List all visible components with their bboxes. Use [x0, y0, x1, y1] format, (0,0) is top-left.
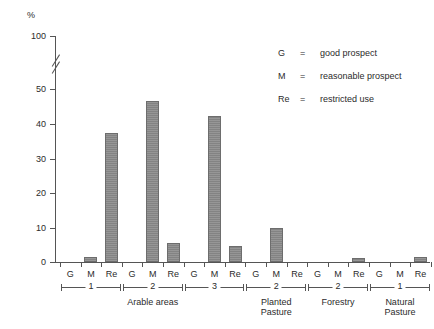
- group-number-label: 1: [85, 281, 96, 291]
- bracket-cap-left: [246, 284, 247, 291]
- bar: [414, 257, 427, 262]
- x-axis-tick: [287, 262, 288, 267]
- x-axis-category-label: G: [252, 269, 259, 280]
- x-axis-tick: [122, 262, 123, 267]
- legend-key: G: [278, 42, 300, 65]
- legend-row: M=reasonable prospect: [278, 65, 402, 88]
- x-axis-tick: [204, 262, 205, 267]
- section-label: Arable areas: [127, 297, 178, 307]
- legend-description: restricted use: [320, 88, 374, 111]
- bracket-cap-left: [185, 284, 186, 291]
- group-number-label: 2: [271, 281, 282, 291]
- bracket-cap-left: [123, 284, 124, 291]
- bracket-cap-right: [243, 284, 244, 291]
- section-label: Planted Pasture: [261, 297, 292, 317]
- bar: [229, 246, 242, 262]
- legend-key: M: [278, 65, 300, 88]
- x-axis-tick: [81, 262, 82, 267]
- x-axis-category-label: G: [376, 269, 383, 280]
- bracket-cap-right: [182, 284, 183, 291]
- x-axis-tick: [163, 262, 164, 267]
- group-bracket: 2: [246, 283, 306, 292]
- legend-description: good prospect: [320, 42, 377, 65]
- x-axis-category-label: M: [334, 269, 342, 280]
- legend-row: G=good prospect: [278, 42, 402, 65]
- bracket-cap-right: [367, 284, 368, 291]
- bar: [84, 257, 97, 262]
- x-axis-category-label: M: [396, 269, 404, 280]
- x-axis-category-label: Re: [353, 269, 365, 280]
- x-axis-category-label: Re: [168, 269, 180, 280]
- legend-row: Re=restricted use: [278, 88, 402, 111]
- group-bracket: 1: [370, 283, 430, 292]
- x-axis-tick: [266, 262, 267, 267]
- group-number-label: 1: [394, 281, 405, 291]
- legend-equals-sign: =: [300, 42, 320, 65]
- chart-figure: % 10050403020100 GMRe1GMRe2GMRe3GMRe2GMR…: [0, 0, 434, 329]
- x-axis-tick: [60, 262, 61, 267]
- bar: [167, 243, 180, 262]
- x-axis-category-label: Re: [229, 269, 241, 280]
- bracket-cap-left: [370, 284, 371, 291]
- x-axis-category-label: G: [67, 269, 74, 280]
- legend-description: reasonable prospect: [320, 65, 402, 88]
- x-axis-tick: [307, 262, 308, 267]
- x-axis-tick: [225, 262, 226, 267]
- x-axis-category-label: M: [211, 269, 219, 280]
- group-bracket: 1: [61, 283, 121, 292]
- x-axis-category-label: Re: [106, 269, 118, 280]
- group-bracket: 2: [123, 283, 183, 292]
- bracket-cap-left: [61, 284, 62, 291]
- group-bracket: 2: [308, 283, 368, 292]
- section-label: Natural Pasture: [384, 297, 415, 317]
- x-axis-tick: [101, 262, 102, 267]
- bar: [352, 258, 365, 262]
- x-axis-tick: [328, 262, 329, 267]
- x-axis-category-label: M: [149, 269, 157, 280]
- bar: [146, 101, 159, 262]
- x-axis-tick: [431, 262, 432, 267]
- x-axis-category-label: Re: [291, 269, 303, 280]
- legend-key: Re: [278, 88, 300, 111]
- x-axis-tick: [184, 262, 185, 267]
- x-axis-category-label: Re: [415, 269, 427, 280]
- x-axis-tick: [142, 262, 143, 267]
- x-axis-tick: [390, 262, 391, 267]
- group-number-label: 2: [333, 281, 344, 291]
- bar: [105, 133, 118, 262]
- x-axis-category-label: G: [314, 269, 321, 280]
- legend-equals-sign: =: [300, 65, 320, 88]
- bracket-cap-right: [305, 284, 306, 291]
- x-axis-tick: [245, 262, 246, 267]
- section-label: Forestry: [322, 297, 355, 307]
- group-bracket: 3: [185, 283, 245, 292]
- group-number-label: 3: [209, 281, 220, 291]
- x-axis-category-label: M: [273, 269, 281, 280]
- x-axis-category-label: M: [87, 269, 95, 280]
- chart-legend: G=good prospectM=reasonable prospectRe=r…: [278, 42, 402, 111]
- bracket-cap-left: [308, 284, 309, 291]
- x-axis-category-label: G: [190, 269, 197, 280]
- x-axis-tick: [348, 262, 349, 267]
- bar: [208, 116, 221, 262]
- legend-equals-sign: =: [300, 88, 320, 111]
- bracket-cap-right: [120, 284, 121, 291]
- group-number-label: 2: [147, 281, 158, 291]
- x-axis-tick: [369, 262, 370, 267]
- x-axis-tick: [410, 262, 411, 267]
- bar: [270, 228, 283, 262]
- x-axis-category-label: G: [129, 269, 136, 280]
- bracket-cap-right: [429, 284, 430, 291]
